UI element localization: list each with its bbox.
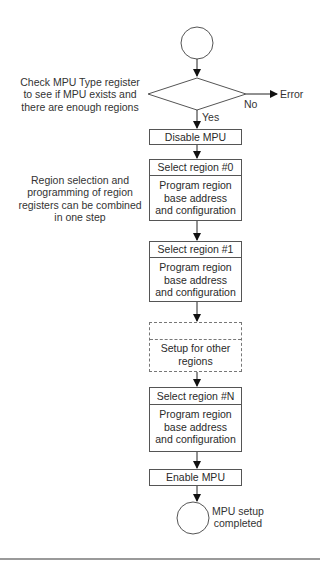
step-head: Select region #N bbox=[150, 388, 241, 405]
step-head bbox=[150, 323, 241, 340]
other-regions-step: Setup for other regions bbox=[149, 322, 242, 372]
end-terminal bbox=[177, 502, 209, 534]
end-label-line: completed bbox=[212, 517, 264, 529]
step-head: Select region #0 bbox=[150, 160, 241, 176]
regionN-step: Select region #N Program region base add… bbox=[149, 387, 242, 452]
bottom-divider bbox=[0, 558, 320, 560]
note-line: in one step bbox=[18, 211, 141, 223]
start-terminal bbox=[181, 27, 213, 59]
no-label: No bbox=[244, 98, 257, 110]
enable-mpu-step: Enable MPU bbox=[149, 469, 242, 486]
error-label: Error bbox=[280, 88, 303, 100]
yes-label: Yes bbox=[202, 111, 219, 123]
body-line: regions bbox=[150, 355, 241, 368]
region1-step: Select region #1 Program region base add… bbox=[149, 241, 242, 302]
body-line: base address bbox=[150, 192, 241, 205]
note-line: programming of region bbox=[18, 186, 141, 198]
region0-step: Select region #0 Program region base add… bbox=[149, 159, 242, 221]
step-body: Program region base address and configur… bbox=[150, 176, 241, 217]
disable-mpu-step: Disable MPU bbox=[149, 129, 242, 145]
decision-annotation: Check MPU Type register to see if MPU ex… bbox=[20, 76, 139, 113]
end-label-line: MPU setup bbox=[212, 505, 264, 517]
step-head: Select region #1 bbox=[150, 242, 241, 258]
annotation-line: to see if MPU exists and bbox=[20, 88, 139, 100]
body-line: base address bbox=[150, 274, 241, 287]
end-label: MPU setup completed bbox=[212, 505, 264, 530]
body-line: Program region bbox=[150, 261, 241, 274]
step-label: Disable MPU bbox=[150, 130, 241, 144]
side-note: Region selection and programming of regi… bbox=[18, 174, 141, 223]
body-line: and configuration bbox=[150, 433, 241, 446]
body-line: and configuration bbox=[150, 286, 241, 299]
annotation-line: Check MPU Type register bbox=[20, 76, 139, 88]
step-label: Enable MPU bbox=[150, 470, 241, 484]
body-line: base address bbox=[150, 421, 241, 434]
body-line: Program region bbox=[150, 179, 241, 192]
annotation-line: there are enough regions bbox=[20, 101, 139, 113]
decision-diamond bbox=[148, 78, 246, 110]
note-line: registers can be combined bbox=[18, 199, 141, 211]
step-body: Program region base address and configur… bbox=[150, 258, 241, 299]
body-line: Program region bbox=[150, 408, 241, 421]
body-line: Setup for other bbox=[150, 342, 241, 355]
step-body: Setup for other regions bbox=[150, 340, 241, 367]
step-body: Program region base address and configur… bbox=[150, 405, 241, 446]
note-line: Region selection and bbox=[18, 174, 141, 186]
body-line: and configuration bbox=[150, 204, 241, 217]
